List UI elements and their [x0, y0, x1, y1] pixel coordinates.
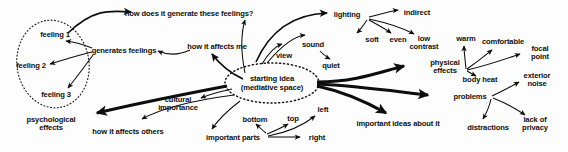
node-important-ideas[interactable]: important ideas about it — [356, 120, 439, 128]
node-indirect[interactable]: indirect — [404, 9, 430, 17]
mind-map-canvas: feeling 1 feeling 2 feeling 3 generates … — [0, 0, 568, 152]
node-right[interactable]: right — [309, 134, 325, 142]
node-quiet[interactable]: quiet — [322, 62, 340, 70]
edge-how-affects-me-to-generates — [158, 50, 190, 54]
edge-generates-to-feeling1 — [66, 41, 92, 48]
node-lighting[interactable]: lighting — [334, 11, 360, 19]
edge-problems-to-distractions — [483, 99, 491, 119]
edge-important-parts-to-top — [267, 124, 288, 134]
node-comfortable[interactable]: comfortable — [482, 38, 524, 46]
edge-physical-to-focal-point — [467, 54, 520, 70]
node-left[interactable]: left — [318, 106, 329, 114]
edge-lighting-to-soft — [357, 20, 367, 33]
node-low-contrast[interactable]: low contrast — [410, 35, 439, 52]
edge-generates-to-feeling2 — [50, 52, 92, 64]
node-physical-effects[interactable]: physical effects — [430, 59, 459, 76]
node-lack-of-privacy[interactable]: lack of privacy — [522, 116, 548, 133]
edge-important-parts-to-bottom — [256, 124, 266, 133]
node-distractions[interactable]: distractions — [467, 124, 509, 132]
node-body-heat[interactable]: body heat — [463, 76, 498, 84]
node-exterior-noise[interactable]: exterior noise — [524, 72, 551, 89]
node-warm[interactable]: warm — [456, 35, 475, 43]
node-top[interactable]: top — [287, 115, 298, 123]
node-important-parts[interactable]: important parts — [206, 134, 260, 142]
edge-problems-to-lack-of-privacy — [493, 98, 525, 115]
edge-feeling1-to-how-generate — [68, 11, 131, 33]
node-how-it-affects-me[interactable]: how it affects me — [187, 43, 247, 51]
node-problems[interactable]: problems — [453, 93, 486, 101]
node-how-it-affects-others[interactable]: how it affects others — [92, 128, 163, 136]
node-soft[interactable]: soft — [365, 36, 378, 44]
edge-lighting-to-indirect — [369, 10, 398, 17]
node-feeling-2[interactable]: feeling 2 — [16, 62, 46, 70]
node-focal-point[interactable]: focal point — [531, 45, 549, 62]
edge-center-to-how-affects-me — [212, 54, 243, 79]
edge-center-to-important-parts — [212, 101, 240, 129]
node-how-does-it-generate[interactable]: how does it generate these feelings? — [125, 10, 254, 18]
edge-lighting-to-low-contrast — [369, 19, 414, 34]
node-view[interactable]: view — [276, 52, 292, 60]
node-feeling-3[interactable]: feeling 3 — [41, 91, 71, 99]
node-even[interactable]: even — [390, 36, 407, 44]
node-feeling-1[interactable]: feeling 1 — [40, 31, 70, 39]
node-bottom[interactable]: bottom — [242, 116, 267, 124]
node-psychological-effects[interactable]: psychological effects — [26, 116, 75, 133]
node-generates-feelings[interactable]: generates feelings — [92, 47, 157, 55]
edge-physical-to-warm — [464, 46, 466, 69]
edge-sound-to-quiet — [320, 51, 330, 59]
node-starting-idea[interactable]: starting idea (mediative space) — [241, 74, 303, 92]
node-cultural-importance[interactable]: cultural importance — [158, 96, 198, 113]
node-sound[interactable]: sound — [302, 41, 324, 49]
edge-physical-to-comfortable — [467, 50, 492, 69]
